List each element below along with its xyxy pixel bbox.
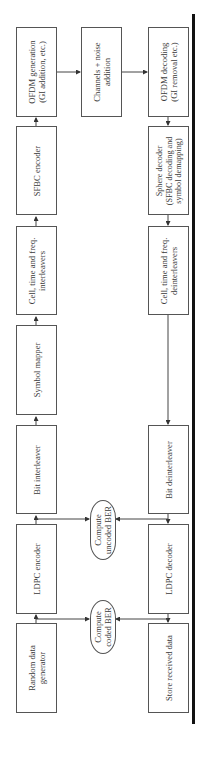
cell-deinterleavers-block: Cell, time and freq. deinterleavers bbox=[148, 226, 189, 315]
cell-deinterleavers-label: Cell, time and freq. deinterleavers bbox=[159, 237, 179, 304]
symbol-mapper-block: Symbol mapper bbox=[16, 325, 57, 415]
ofdm-decoding-label: OFDM decoding (GI removal etc.) bbox=[159, 42, 179, 101]
ldpc-decoder-block: LDPC decoder bbox=[148, 524, 189, 614]
page-edge-rule bbox=[192, 14, 195, 724]
channel-noise-block: Channels + noise addition bbox=[81, 27, 122, 117]
random-data-generator-block: Random data generator bbox=[16, 623, 57, 713]
ldpc-encoder-label: LDPC encoder bbox=[32, 543, 42, 594]
sphere-decoder-label: Sphere decoder (SFBC decoding and symbol… bbox=[154, 136, 183, 205]
channel-noise-label: Channels + noise addition bbox=[92, 42, 112, 101]
random-data-generator-label: Random data generator bbox=[27, 645, 47, 691]
symbol-mapper-label: Symbol mapper bbox=[32, 343, 42, 398]
ofdm-generation-label: OFDM generation (GI addition, etc.) bbox=[27, 40, 47, 103]
bit-deinterleaver-block: Bit deinterleaver bbox=[148, 425, 189, 514]
store-received-data-block: Store received data bbox=[148, 623, 189, 713]
bit-interleaver-label: Bit interleaver bbox=[32, 445, 42, 494]
sfbc-encoder-block: SFBC encoder bbox=[16, 126, 57, 215]
cell-interleavers-block: Cell, time and freq. interleavers bbox=[16, 226, 57, 315]
bit-deinterleaver-label: Bit deinterleaver bbox=[164, 441, 174, 499]
ofdm-generation-block: OFDM generation (GI addition, etc.) bbox=[16, 27, 57, 117]
bit-interleaver-block: Bit interleaver bbox=[16, 425, 57, 514]
coded-ber-label: Compute coded BER bbox=[93, 607, 113, 646]
ofdm-decoding-block: OFDM decoding (GI removal etc.) bbox=[148, 27, 189, 117]
ldpc-decoder-label: LDPC decoder bbox=[164, 543, 174, 594]
uncoded-ber-node: Compute uncoded BER bbox=[90, 500, 116, 560]
coded-ber-node: Compute coded BER bbox=[90, 600, 116, 654]
sphere-decoder-block: Sphere decoder (SFBC decoding and symbol… bbox=[148, 126, 189, 215]
ldpc-encoder-block: LDPC encoder bbox=[16, 524, 57, 614]
cell-interleavers-label: Cell, time and freq. interleavers bbox=[27, 237, 47, 304]
store-received-data-label: Store received data bbox=[164, 635, 174, 701]
sfbc-encoder-label: SFBC encoder bbox=[32, 145, 42, 195]
uncoded-ber-label: Compute uncoded BER bbox=[93, 506, 113, 554]
